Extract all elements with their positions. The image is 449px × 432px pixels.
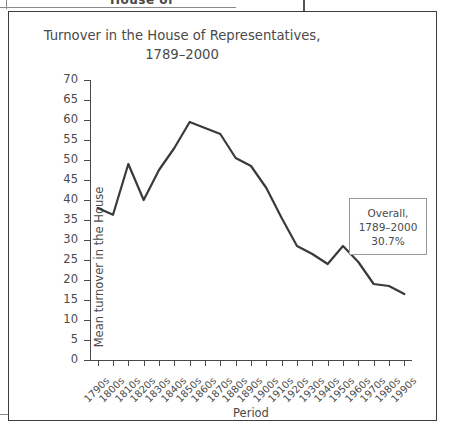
x-tick <box>374 360 375 366</box>
y-tick-label: 5 <box>71 332 78 346</box>
y-tick-label: 10 <box>63 312 78 326</box>
x-tick <box>159 360 160 366</box>
y-tick-label: 0 <box>71 352 78 366</box>
x-tick <box>358 360 359 366</box>
x-tick <box>174 360 175 366</box>
y-tick-label: 35 <box>63 212 78 226</box>
x-tick <box>343 360 344 366</box>
y-tick-label: 45 <box>63 172 78 186</box>
x-tick <box>282 360 283 366</box>
x-tick <box>297 360 298 366</box>
x-tick <box>389 360 390 366</box>
figure-frame: Turnover in the House of Representatives… <box>8 11 437 421</box>
x-tick <box>251 360 252 366</box>
y-tick-label: 25 <box>63 252 78 266</box>
y-tick-label: 20 <box>63 272 78 286</box>
cropped-page-header: House of <box>110 0 240 5</box>
x-tick <box>328 360 329 366</box>
x-tick <box>128 360 129 366</box>
chart-title: Turnover in the House of Representatives… <box>27 26 337 64</box>
y-tick-label: 60 <box>63 112 78 126</box>
x-tick <box>205 360 206 366</box>
x-tick <box>98 360 99 366</box>
y-tick-label: 70 <box>63 72 78 86</box>
x-tick <box>266 360 267 366</box>
x-tick <box>404 360 405 366</box>
x-tick <box>113 360 114 366</box>
x-tick <box>190 360 191 366</box>
x-tick <box>144 360 145 366</box>
x-tick <box>312 360 313 366</box>
x-axis-label: Period <box>90 406 412 420</box>
y-tick-label: 55 <box>63 132 78 146</box>
y-tick-label: 65 <box>63 92 78 106</box>
y-tick <box>84 360 90 361</box>
y-tick-label: 40 <box>63 192 78 206</box>
y-tick-label: 15 <box>63 292 78 306</box>
x-tick <box>236 360 237 366</box>
y-tick-label: 50 <box>63 152 78 166</box>
x-tick <box>220 360 221 366</box>
page-rule-top <box>0 7 236 8</box>
y-tick-label: 30 <box>63 232 78 246</box>
overall-annotation-box: Overall, 1789–2000 30.7% <box>349 198 427 255</box>
